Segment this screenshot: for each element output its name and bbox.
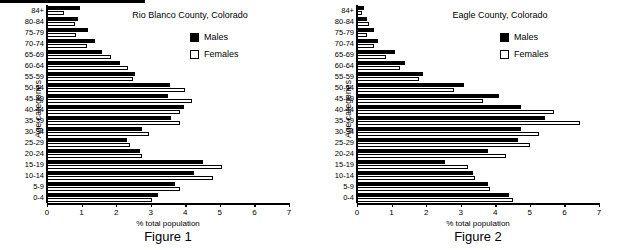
bar-row: 50-54 — [47, 82, 289, 93]
bar-males — [47, 17, 78, 21]
x-tick — [426, 203, 427, 207]
x-tick-label: 1 — [79, 208, 83, 217]
bar-females — [357, 44, 374, 48]
bar-males — [47, 127, 142, 131]
bar-row: 10-14 — [357, 170, 599, 181]
bar-males — [47, 182, 175, 186]
bar-row: 60-64 — [357, 60, 599, 71]
bar-row: 75-79 — [47, 27, 289, 38]
bar-row: 15-19 — [47, 159, 289, 170]
bar-males — [357, 160, 445, 164]
x-tick-label: 4 — [493, 208, 497, 217]
bar-females — [47, 154, 142, 158]
category-label: 65-69 — [335, 49, 354, 60]
bar-females — [357, 99, 483, 103]
bar-row: 55-59 — [47, 71, 289, 82]
bar-row: 5-9 — [357, 181, 599, 192]
bar-females — [357, 121, 580, 125]
x-tick-label: 7 — [287, 208, 291, 217]
category-label: 10-14 — [335, 170, 354, 181]
bar-males — [47, 6, 80, 10]
bar-row: 25-29 — [47, 137, 289, 148]
bar-row: 75-79 — [357, 27, 599, 38]
bar-males — [357, 182, 488, 186]
bar-males — [47, 105, 184, 109]
bar-males — [47, 61, 120, 65]
bar-row: 84+ — [47, 5, 289, 16]
legend-1: Males Females — [190, 32, 239, 66]
x-tick-label: 2 — [424, 208, 428, 217]
x-tick — [47, 203, 48, 207]
category-label: 0-4 — [33, 192, 44, 203]
x-tick-label: 0 — [355, 208, 359, 217]
bar-row: 30-34 — [47, 126, 289, 137]
bar-row: 10-14 — [47, 170, 289, 181]
bar-row: 70-74 — [47, 38, 289, 49]
bar-females — [47, 44, 87, 48]
bar-males — [47, 28, 88, 32]
figure-2: Eagle County, Colorado Age categories 84… — [310, 0, 619, 250]
category-label: 60-64 — [335, 60, 354, 71]
category-label: 75-79 — [25, 27, 44, 38]
category-label: 50-54 — [25, 82, 44, 93]
category-label: 0-4 — [343, 192, 354, 203]
bar-males — [47, 160, 203, 164]
category-label: 40-44 — [25, 104, 44, 115]
bar-females — [357, 176, 475, 180]
bar-males — [357, 50, 395, 54]
bar-row: 84+ — [357, 5, 599, 16]
category-label: 80-84 — [25, 16, 44, 27]
bar-row: 35-39 — [47, 115, 289, 126]
category-label: 80-84 — [335, 16, 354, 27]
category-label: 45-49 — [25, 93, 44, 104]
bar-row: 80-84 — [357, 16, 599, 27]
category-label: 55-59 — [25, 71, 44, 82]
category-label: 25-29 — [335, 137, 354, 148]
x-tick-label: 5 — [528, 208, 532, 217]
bar-males — [47, 83, 170, 87]
legend-label-females: Females — [204, 49, 239, 59]
bar-females — [357, 88, 454, 92]
bar-females — [47, 176, 213, 180]
category-label: 35-39 — [335, 115, 354, 126]
bar-females — [357, 154, 506, 158]
bar-males — [357, 61, 405, 65]
bar-males — [47, 171, 194, 175]
bar-males — [357, 39, 378, 43]
bar-row: 40-44 — [47, 104, 289, 115]
x-tick — [357, 203, 358, 207]
bar-males — [357, 105, 521, 109]
x-axis-line — [47, 203, 289, 205]
x-tick-label: 3 — [458, 208, 462, 217]
category-label: 45-49 — [335, 93, 354, 104]
bar-females — [47, 99, 192, 103]
bar-males — [47, 72, 135, 76]
x-tick — [289, 203, 290, 207]
bar-females — [357, 33, 367, 37]
bar-females — [47, 132, 149, 136]
bar-row: 50-54 — [357, 82, 599, 93]
bar-row: 0-4 — [357, 192, 599, 203]
category-label: 15-19 — [335, 159, 354, 170]
legend-label-females: Females — [514, 49, 549, 59]
bar-row: 25-29 — [357, 137, 599, 148]
bar-females — [47, 187, 180, 191]
plot-area-2: 84+80-8475-7970-7465-6960-6455-5950-5445… — [357, 5, 599, 203]
legend-swatch-males-icon — [190, 33, 199, 42]
bar-females — [47, 66, 128, 70]
x-tick-label: 7 — [597, 208, 601, 217]
bar-males — [357, 138, 518, 142]
category-label: 10-14 — [25, 170, 44, 181]
category-label: 30-34 — [335, 126, 354, 137]
bar-females — [47, 55, 111, 59]
x-tick — [392, 203, 393, 207]
category-label: 5-9 — [343, 181, 354, 192]
bar-males — [357, 127, 521, 131]
bar-females — [357, 66, 400, 70]
x-tick-label: 1 — [389, 208, 393, 217]
x-tick-label: 2 — [114, 208, 118, 217]
bar-males — [47, 138, 127, 142]
x-tick-label: 6 — [562, 208, 566, 217]
bar-males — [357, 116, 545, 120]
category-label: 15-19 — [25, 159, 44, 170]
